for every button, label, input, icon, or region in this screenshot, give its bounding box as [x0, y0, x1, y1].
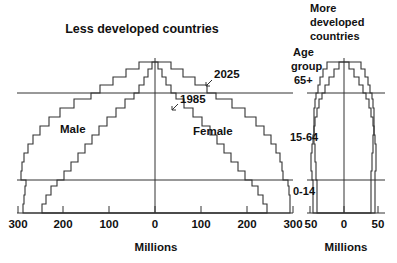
right-panel-title-line3: countries	[310, 30, 360, 43]
left-2025-leader	[206, 80, 212, 86]
left-tick-label-4: 100	[191, 218, 210, 231]
age-band-label-65plus: 65+	[294, 74, 313, 87]
left-tick-label-3: 0	[152, 218, 158, 231]
right-tick-label-0: 50	[305, 218, 318, 231]
age-band-label-15-64: 15-64	[290, 131, 318, 144]
right-axis-ticks	[310, 206, 378, 213]
left-tick-label-1: 200	[53, 218, 72, 231]
left-panel-title: Less developed countries	[65, 22, 219, 36]
age-band-label-0-14: 0-14	[293, 185, 315, 198]
left-tick-label-6: 300	[283, 218, 302, 231]
left-axis-ticks	[18, 206, 293, 213]
left-tick-label-0: 300	[8, 218, 27, 231]
right-panel-title-line1: More	[310, 2, 336, 15]
right-tick-label-2: 50	[372, 218, 385, 231]
right-panel-title-line2: developed	[310, 16, 364, 29]
right-axis-unit-label: Millions	[325, 241, 368, 254]
left-1985-leader	[172, 104, 178, 110]
age-axis-header-line2: group	[291, 60, 322, 73]
annotation-1985: 1985	[180, 93, 206, 106]
left-tick-label-5: 200	[237, 218, 256, 231]
age-axis-header-line1: Age	[293, 46, 314, 59]
annotation-female: Female	[193, 125, 233, 138]
left-axis-unit-label: Millions	[135, 241, 178, 254]
left-tick-label-2: 100	[99, 218, 118, 231]
right-tick-label-1: 0	[341, 218, 347, 231]
population-pyramid-figure: Less developed countries More developed …	[0, 0, 397, 263]
annotation-2025: 2025	[214, 68, 240, 81]
annotation-male: Male	[60, 123, 86, 136]
